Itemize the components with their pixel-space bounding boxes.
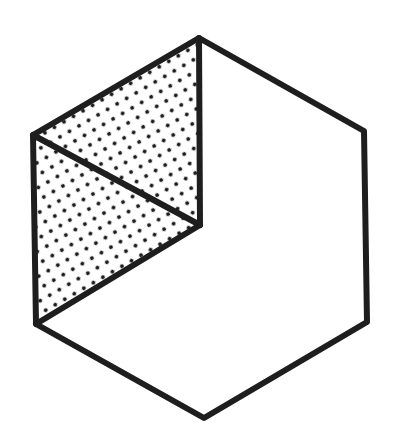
hexagon-diagram (0, 0, 394, 439)
inner-edge-top-center (199, 38, 200, 225)
